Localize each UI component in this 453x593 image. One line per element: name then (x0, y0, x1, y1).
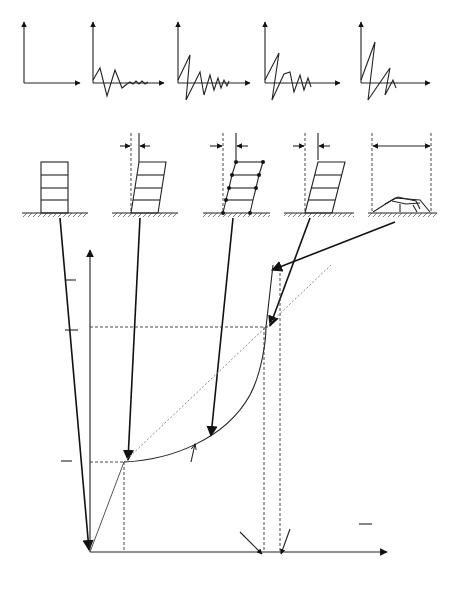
y-axis-label (0, 0, 76, 280)
x-axis-label (0, 0, 372, 524)
signal-plot-4 (0, 0, 430, 100)
frame-a (0, 0, 178, 217)
signal-plot-1 (0, 0, 164, 96)
frame-c-collapsed (368, 133, 437, 217)
frame-b-double-prime (0, 0, 354, 217)
mapping-arrows (60, 218, 395, 550)
diagram-canvas (0, 0, 453, 593)
nonlinear-curve (124, 265, 273, 462)
linear-analysis-line (124, 265, 331, 462)
signal-plot-0 (0, 0, 80, 83)
signal-plot-3 (0, 0, 340, 100)
frame-undeformed (22, 162, 88, 217)
